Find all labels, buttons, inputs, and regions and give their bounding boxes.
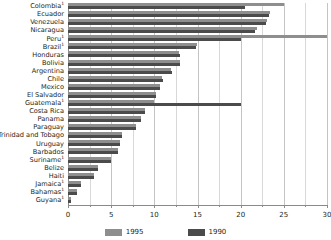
bar-row <box>68 92 327 100</box>
bar-row <box>68 76 327 84</box>
bar-row <box>68 27 327 35</box>
category-label: Costa Rica <box>29 108 64 115</box>
bar-row <box>68 11 327 19</box>
bar-row <box>68 157 327 165</box>
bar-1990 <box>68 168 98 171</box>
x-tick-label: 10 <box>150 211 159 219</box>
x-tick-label: 30 <box>323 211 331 219</box>
bar-1990 <box>68 46 196 49</box>
bar-1990 <box>68 127 136 130</box>
bar-1990 <box>68 192 77 195</box>
bar-1990 <box>68 111 145 114</box>
category-label: Paraguay <box>33 124 64 131</box>
axis-tick <box>327 205 328 208</box>
bar-row <box>68 140 327 148</box>
axis-tick <box>241 205 242 208</box>
axis-tick <box>154 205 155 208</box>
bar-1990 <box>68 87 160 90</box>
bar-1990 <box>68 151 118 154</box>
bar-1990 <box>68 22 266 25</box>
category-label: Barbados <box>33 149 64 156</box>
footnote-marker: 1 <box>61 179 64 184</box>
axis-tick <box>90 205 91 207</box>
category-label: Nicaragua <box>30 27 64 34</box>
bar-row <box>68 100 327 108</box>
bar-row <box>68 60 327 68</box>
category-label: Bahamas1 <box>31 189 64 196</box>
bar-1990 <box>68 160 111 163</box>
legend-swatch-1995 <box>105 229 122 236</box>
bar-row <box>68 124 327 132</box>
footnote-marker: 1 <box>61 1 64 6</box>
bar-row <box>68 51 327 59</box>
axis-tick <box>198 205 199 208</box>
category-label: Chile <box>47 76 64 83</box>
bar-1990 <box>68 176 94 179</box>
legend-label-1995: 1995 <box>126 228 144 236</box>
category-label: Uruguay <box>36 141 64 148</box>
bar-1990 <box>68 119 141 122</box>
bar-row <box>68 189 327 197</box>
category-label: Colombia1 <box>30 3 64 10</box>
x-tick-label: 0 <box>66 211 70 219</box>
axis-tick <box>219 205 220 207</box>
footnote-marker: 1 <box>61 155 64 160</box>
bar-1990 <box>68 63 180 66</box>
gridline <box>327 3 328 205</box>
bar-1990 <box>68 71 172 74</box>
footnote-marker: 1 <box>61 98 64 103</box>
category-label: Brazil1 <box>43 44 64 51</box>
category-label: Argentina <box>32 68 64 75</box>
bar-1990 <box>68 103 241 106</box>
category-label: Mexico <box>41 84 64 91</box>
bar-rows <box>68 3 327 205</box>
category-label: Guyana1 <box>36 197 64 204</box>
bar-row <box>68 68 327 76</box>
bar-row <box>68 116 327 124</box>
legend-item-1995: 1995 <box>105 228 144 236</box>
footnote-marker: 1 <box>61 195 64 200</box>
bar-row <box>68 43 327 51</box>
legend-swatch-1990 <box>188 229 205 236</box>
category-label: Jamaica1 <box>35 181 64 188</box>
footnote-marker: 1 <box>61 41 64 46</box>
plot-area <box>68 3 327 205</box>
category-label: Bolivia <box>42 60 64 67</box>
x-tick-label: 15 <box>193 211 202 219</box>
bar-row <box>68 181 327 189</box>
bar-1990 <box>68 14 269 17</box>
bar-row <box>68 35 327 43</box>
bar-1990 <box>68 95 156 98</box>
bar-1990 <box>68 30 255 33</box>
horizontal-bar-chart: Colombia1EcuadorVenezuelaNicaraguaPeru1B… <box>0 0 331 240</box>
category-label: Panama <box>38 116 64 123</box>
bar-row <box>68 132 327 140</box>
axis-tick <box>68 205 69 208</box>
bar-1990 <box>68 6 245 9</box>
category-label: Ecuador <box>37 11 64 18</box>
bar-1990 <box>68 79 163 82</box>
axis-tick <box>133 205 134 207</box>
x-tick-label: 5 <box>109 211 113 219</box>
chart-legend: 1995 1990 <box>0 226 331 238</box>
legend-item-1990: 1990 <box>188 228 227 236</box>
bar-1990 <box>68 200 71 203</box>
category-label: Honduras <box>32 52 64 59</box>
x-tick-label: 20 <box>236 211 245 219</box>
axis-tick <box>284 205 285 208</box>
category-label: Belize <box>44 165 64 172</box>
category-label: Guatemala1 <box>25 100 64 107</box>
bar-row <box>68 108 327 116</box>
bar-1990 <box>68 184 81 187</box>
bar-row <box>68 148 327 156</box>
category-label: Suriname1 <box>30 157 64 164</box>
bar-row <box>68 197 327 205</box>
bar-row <box>68 84 327 92</box>
bar-row <box>68 3 327 11</box>
bar-1990 <box>68 135 122 138</box>
bar-1990 <box>68 143 120 146</box>
category-labels: Colombia1EcuadorVenezuelaNicaraguaPeru1B… <box>0 3 66 205</box>
axis-tick <box>111 205 112 208</box>
category-label: Trinidad and Tobago <box>0 132 64 139</box>
bar-1990 <box>68 38 241 41</box>
